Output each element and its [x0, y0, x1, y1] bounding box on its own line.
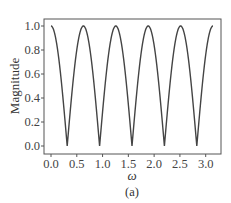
y-tick-label: 0.0: [24, 139, 40, 153]
y-tick-label: 1.0: [24, 19, 40, 33]
x-tick-label: 1.0: [95, 157, 111, 171]
figure-caption: (a): [125, 185, 139, 199]
y-tick-label: 0.6: [24, 67, 40, 81]
y-tick-label: 0.4: [24, 91, 40, 105]
magnitude-curve: [51, 26, 213, 146]
x-tick-label: 2.0: [146, 157, 162, 171]
x-tick-label: 2.5: [172, 157, 188, 171]
y-axis-ticks: 0.00.20.40.60.81.0: [24, 19, 44, 153]
y-tick-label: 0.2: [24, 115, 40, 129]
x-tick-label: 0.5: [69, 157, 85, 171]
x-tick-label: 0.0: [43, 157, 59, 171]
y-tick-label: 0.8: [24, 43, 40, 57]
x-axis-label: ω: [127, 168, 136, 183]
y-axis-label: Magnitude: [7, 58, 22, 115]
x-tick-label: 3.0: [198, 157, 214, 171]
magnitude-chart: 0.00.20.40.60.81.0 0.00.51.01.52.02.53.0…: [0, 0, 231, 203]
